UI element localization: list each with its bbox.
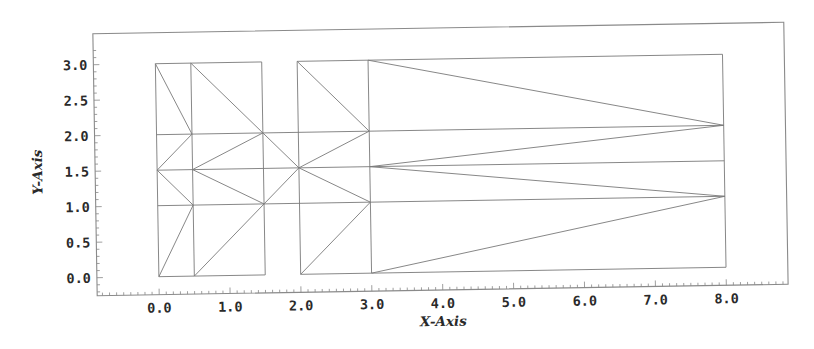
mesh-plot: 0.01.02.03.04.05.06.07.08.0 0.00.51.01.5… <box>0 0 814 349</box>
y-tick-labels: 0.00.51.01.52.02.53.0 <box>63 57 91 286</box>
mesh-edge <box>191 62 263 134</box>
y-tick-label: 3.0 <box>63 57 88 73</box>
x-tick-label: 0.0 <box>147 299 172 315</box>
mesh-edge <box>368 54 724 131</box>
mesh-edge <box>370 196 726 273</box>
mesh-edge <box>370 161 725 202</box>
y-tick-label: 1.0 <box>65 199 90 215</box>
mesh-edge <box>299 202 371 274</box>
mesh-edge <box>192 133 263 170</box>
mesh-edge <box>299 167 370 204</box>
mesh-edge <box>369 125 724 166</box>
mesh-edge <box>159 276 194 277</box>
mesh-edge <box>155 63 190 64</box>
mesh-lines <box>155 54 726 276</box>
mesh-edge <box>158 205 195 277</box>
y-tick-label: 0.5 <box>66 234 91 250</box>
mesh-edge <box>193 168 264 205</box>
x-tick-label: 8.0 <box>714 290 739 306</box>
mesh-edge <box>193 204 265 276</box>
y-axis-label: Y-Axis <box>29 149 46 195</box>
mesh-edge <box>297 60 368 61</box>
mesh-edge <box>157 125 724 134</box>
x-tick-label: 3.0 <box>360 296 385 312</box>
y-tick-label: 2.0 <box>64 128 89 144</box>
x-tick-label: 7.0 <box>643 291 668 307</box>
x-axis-label: X-Axis <box>419 313 468 330</box>
y-tick-label: 2.5 <box>63 92 88 108</box>
x-tick-label: 1.0 <box>218 298 243 314</box>
mesh-edge <box>157 170 193 206</box>
y-tick-label: 0.0 <box>66 270 91 286</box>
mesh-edge <box>297 60 369 132</box>
x-tick-label: 4.0 <box>431 295 456 311</box>
mesh-edge <box>263 132 299 168</box>
mesh-edge <box>191 62 262 63</box>
mesh-edge <box>157 161 724 170</box>
x-tick-label: 6.0 <box>572 292 597 308</box>
mesh-edge <box>372 267 726 273</box>
x-tick-label: 5.0 <box>502 294 527 310</box>
mesh-edge <box>368 54 722 60</box>
mesh-edge <box>194 275 265 276</box>
x-tick-label: 2.0 <box>289 297 314 313</box>
mesh-edge <box>155 63 192 135</box>
mesh-edge <box>158 196 725 205</box>
mesh-edge <box>263 168 299 204</box>
mesh-edge <box>157 134 193 170</box>
y-tick-label: 1.5 <box>65 163 90 179</box>
mesh-edge <box>301 273 372 274</box>
mesh-edge <box>298 131 369 168</box>
